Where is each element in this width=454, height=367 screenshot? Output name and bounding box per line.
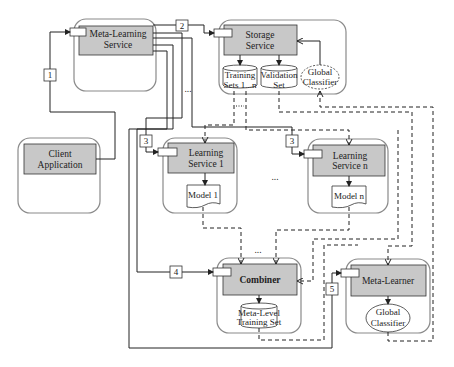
global-classifier-meta[interactable]: Global Classifier [366, 304, 410, 332]
learning-service-n-container: Learning Service n Model n [304, 139, 388, 213]
learning-service-1-label-2: Service 1 [188, 159, 224, 169]
svg-text:2: 2 [180, 21, 185, 31]
validation-set-label-2: Set [273, 80, 285, 90]
global-classifier-meta-label-1: Global [376, 307, 401, 317]
global-classifier-storage-label-2: Classifier [303, 77, 338, 87]
client-application-label-1: Client [48, 149, 72, 159]
combiner-port [213, 268, 231, 276]
svg-text:3: 3 [144, 136, 149, 146]
learning-service-1-port [158, 148, 177, 156]
meta-learning-architecture-diagram: Meta-Learning Service Storage Service Tr… [0, 0, 454, 367]
meta-learner-port [341, 269, 359, 277]
meta-learner-label: Meta-Learner [362, 276, 415, 286]
training-sets-store[interactable]: Training Sets 1...n [223, 65, 257, 90]
learning-service-1-container: Learning Service 1 Model 1 [158, 138, 237, 213]
svg-text:5: 5 [330, 284, 335, 294]
svg-text:1: 1 [48, 70, 53, 80]
meta-learning-service-label-2: Service [104, 40, 133, 50]
meta-level-training-set-label-2: Training Set [237, 317, 282, 327]
global-classifier-storage[interactable]: Global Classifier [301, 65, 339, 89]
validation-set-store[interactable]: Validation Set [261, 65, 298, 90]
ellipsis-learning: ... [271, 172, 278, 182]
step-4-badge: 4 [170, 266, 182, 278]
meta-learning-service-label-1: Meta-Learning [90, 29, 147, 39]
learning-service-1-label-1: Learning [189, 148, 224, 158]
validation-set-label-1: Validation [261, 70, 298, 80]
meta-learner-container: Meta-Learner Global Classifier [341, 259, 430, 333]
learning-service-n-label-1: Learning [333, 151, 368, 161]
global-classifier-storage-label-1: Global [308, 67, 333, 77]
step-3-badge-learning-1: 3 [140, 135, 152, 147]
ellipsis-services: ... [184, 84, 191, 94]
storage-service-port [214, 29, 232, 37]
training-sets-label-2: Sets 1...n [223, 80, 257, 90]
client-application-label-2: Application [38, 160, 83, 170]
storage-service-label-1: Storage [245, 30, 274, 40]
training-sets-label-1: Training [225, 70, 256, 80]
svg-text:3: 3 [290, 136, 295, 146]
storage-service-container: Storage Service Training Sets 1...n Vali… [214, 20, 346, 94]
learning-service-n-port [304, 150, 322, 158]
step-1-badge: 1 [44, 69, 56, 81]
learning-service-n-label-2: Service n [332, 161, 368, 171]
step-5-badge: 5 [326, 283, 338, 295]
ellipsis-combiner: ... [254, 245, 261, 255]
model-n-label: Model n [334, 191, 365, 201]
storage-service-label-2: Service [246, 41, 275, 51]
svg-text:4: 4 [174, 267, 179, 277]
step-3-badge-learning-n: 3 [286, 135, 298, 147]
meta-learning-service-port [70, 28, 86, 36]
combiner-label: Combiner [239, 275, 281, 285]
step-2-badge: 2 [176, 20, 188, 31]
meta-level-training-set-store[interactable]: Meta-Level Training Set [237, 303, 282, 328]
model-1-label: Model 1 [188, 190, 218, 200]
client-application-container: Client Application [18, 138, 100, 213]
combiner-container: Combiner Meta-Level Training Set [213, 258, 301, 333]
global-classifier-meta-label-2: Classifier [371, 318, 406, 328]
meta-learning-service-container: Meta-Learning Service [70, 19, 156, 91]
